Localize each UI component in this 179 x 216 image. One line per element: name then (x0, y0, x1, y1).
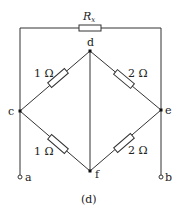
label-resistor-de: 2 Ω (128, 67, 148, 80)
resistor-rx (79, 25, 101, 31)
label-node-b: b (165, 171, 172, 184)
label-node-c: c (8, 105, 14, 118)
node-e-dot (160, 109, 163, 112)
caption: (d) (81, 193, 97, 206)
label-node-d: d (87, 36, 94, 49)
terminal-a (18, 175, 22, 179)
label-resistor-cf: 1 Ω (34, 145, 54, 158)
label-resistor-cd: 1 Ω (34, 67, 54, 80)
terminal-b (159, 175, 163, 179)
node-f-dot (89, 170, 92, 173)
label-rx: Rx (82, 10, 95, 24)
circuit-diagram: Rx d c e f a b 1 Ω 2 Ω 1 Ω 2 Ω (d) (0, 0, 179, 216)
node-d-dot (89, 50, 92, 53)
label-node-e: e (165, 104, 172, 117)
label-resistor-fe: 2 Ω (128, 144, 148, 157)
label-node-f: f (95, 168, 100, 181)
label-node-a: a (25, 171, 32, 184)
node-c-dot (19, 110, 22, 113)
